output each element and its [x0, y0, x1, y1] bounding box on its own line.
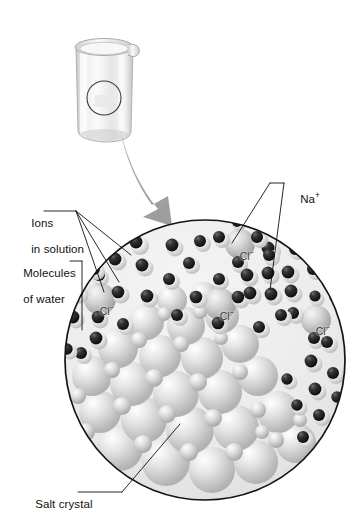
- callout-sodium-ion: Na+: [287, 176, 320, 219]
- magnified-solution-circle: [61, 217, 347, 500]
- callout-molecules-of-water-line2: of water: [23, 293, 65, 305]
- callout-molecules-of-water: Molecules of water: [10, 254, 76, 319]
- callout-ions-in-solution-line1: Ions: [31, 217, 53, 229]
- magnification-arrow: [120, 129, 172, 226]
- beaker-graphic: [75, 39, 139, 144]
- callout-salt-crystal-text: Salt crystal: [35, 498, 92, 510]
- callout-molecules-of-water-line1: Molecules: [23, 267, 76, 279]
- figure-canvas: Ions in solution Molecules of water Na+ …: [0, 0, 356, 522]
- callout-salt-crystal: Salt crystal: [22, 485, 93, 522]
- callout-sodium-ion-symbol: Na: [300, 193, 315, 205]
- callout-sodium-ion-charge: +: [315, 191, 320, 200]
